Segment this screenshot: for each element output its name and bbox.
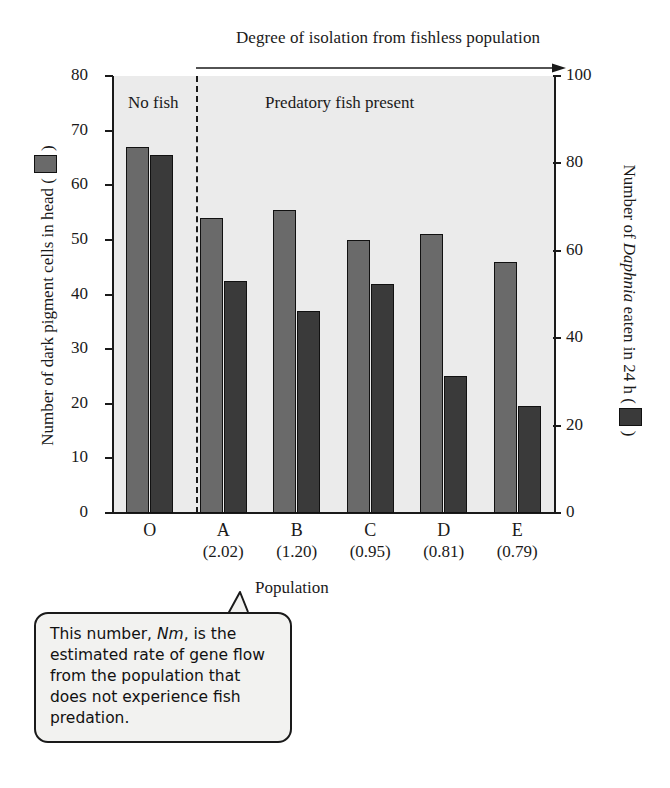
right-axis-title-close: ) xyxy=(620,431,639,437)
bar-pigment-B xyxy=(273,210,296,513)
bar-pigment-A xyxy=(200,218,223,513)
left-tick-10 xyxy=(105,457,113,459)
plot-area xyxy=(113,76,554,513)
callout-text-a: This number, xyxy=(50,625,157,643)
right-tick-label-100: 100 xyxy=(566,65,626,85)
right-axis-title-mid: eaten in 24 h ( xyxy=(620,302,639,404)
left-tick-40 xyxy=(105,294,113,296)
bar-daphnia-E xyxy=(518,406,541,513)
right-tick-label-40: 40 xyxy=(566,327,626,347)
left-tick-50 xyxy=(105,239,113,241)
left-tick-30 xyxy=(105,348,113,350)
fish-divider-line xyxy=(196,76,198,513)
x-label-name-E: E xyxy=(472,519,562,541)
right-tick-label-80: 80 xyxy=(566,152,626,172)
right-tick-label-0: 0 xyxy=(566,502,626,522)
right-tick-0 xyxy=(553,512,561,514)
pigment-legend-swatch xyxy=(34,156,57,174)
bar-daphnia-C xyxy=(371,284,394,513)
left-axis-title: Number of dark pigment cells in head () xyxy=(37,81,58,511)
right-tick-20 xyxy=(553,425,561,427)
daphnia-legend-swatch xyxy=(619,408,642,426)
callout-tail-icon xyxy=(224,588,264,614)
bottom-axis-line xyxy=(112,512,556,514)
isolation-annotation-text: Degree of isolation from fishless popula… xyxy=(236,28,540,47)
region-label-predatory: Predatory fish present xyxy=(265,93,414,113)
left-axis-title-text: Number of dark pigment cells in head ( xyxy=(38,178,57,446)
isolation-annotation: Degree of isolation from fishless popula… xyxy=(188,28,588,48)
bar-pigment-E xyxy=(494,262,517,513)
left-tick-60 xyxy=(105,184,113,186)
right-tick-label-60: 60 xyxy=(566,240,626,260)
left-axis-title-close: ) xyxy=(38,145,57,151)
left-tick-70 xyxy=(105,130,113,132)
right-tick-60 xyxy=(553,250,561,252)
region-label-no-fish: No fish xyxy=(128,93,179,113)
right-axis-title: Number of Daphnia eaten in 24 h () xyxy=(619,86,640,516)
bar-pigment-O xyxy=(126,147,149,513)
bar-daphnia-B xyxy=(297,311,320,513)
right-axis-title-genus: Daphnia xyxy=(620,243,639,303)
bar-daphnia-A xyxy=(224,281,247,513)
bar-daphnia-D xyxy=(444,376,467,513)
x-label-group-E: E(0.79) xyxy=(472,519,562,563)
x-label-nm-E: (0.79) xyxy=(472,541,562,563)
x-axis-title: Population xyxy=(255,578,329,598)
right-tick-80 xyxy=(553,162,561,164)
left-tick-80 xyxy=(105,75,113,77)
callout-nm-symbol: Nm xyxy=(157,625,184,643)
left-tick-20 xyxy=(105,403,113,405)
right-tick-100 xyxy=(553,75,561,77)
isolation-arrow-icon xyxy=(196,62,566,74)
callout-box: This number, Nm, is the estimated rate o… xyxy=(34,612,292,743)
right-tick-label-20: 20 xyxy=(566,415,626,435)
bar-daphnia-O xyxy=(150,155,173,513)
right-tick-40 xyxy=(553,337,561,339)
right-axis-line xyxy=(554,76,556,514)
right-axis-title-pre: Number of xyxy=(620,164,639,242)
bar-pigment-C xyxy=(347,240,370,513)
bar-pigment-D xyxy=(420,234,443,513)
left-tick-0 xyxy=(105,512,113,514)
